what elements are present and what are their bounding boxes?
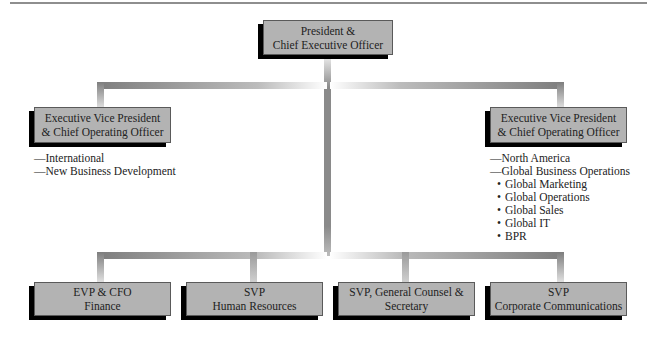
sub-responsibility-item: BPR (490, 230, 630, 243)
connector-top-bracket-right (330, 82, 564, 89)
connector-top-bracket-left (97, 82, 327, 89)
evp-coo-left-box: Executive Vice President & Chief Operati… (34, 107, 171, 143)
ceo-title-line1: President & (301, 24, 356, 38)
bottom-box-line1: SVP (244, 285, 265, 299)
evp-right-responsibilities: —North America —Global Business Operatio… (490, 152, 630, 243)
sub-responsibility-item: Global Marketing (490, 178, 630, 191)
bottom-box-line1: EVP & CFO (73, 285, 131, 299)
evp-right-title-line1: Executive Vice President (501, 111, 616, 125)
responsibility-item: —International (34, 152, 176, 165)
connector-bottom-drop-3 (402, 252, 409, 282)
responsibility-item: —New Business Development (34, 165, 176, 178)
connector-evp-left-drop (97, 82, 104, 107)
bottom-box-line2: Human Resources (213, 299, 297, 313)
sub-responsibility-item: Global Operations (490, 191, 630, 204)
connector-evp-right-drop (557, 82, 564, 107)
connector-bottom-drop-4 (557, 252, 564, 282)
bottom-box-line1: SVP (548, 285, 569, 299)
connector-bottom-bracket-left (97, 252, 327, 259)
svp-corporate-communications-box: SVP Corporate Communications (490, 282, 627, 316)
ceo-box: President & Chief Executive Officer (263, 20, 393, 55)
sub-responsibility-item: Global Sales (490, 204, 630, 217)
evp-coo-right-box: Executive Vice President & Chief Operati… (490, 107, 627, 143)
evp-left-title-line1: Executive Vice President (45, 111, 160, 125)
connector-bottom-drop-1 (97, 252, 104, 282)
evp-right-title-line2: & Chief Operating Officer (497, 125, 619, 139)
svp-general-counsel-box: SVP, General Counsel & Secretary (338, 282, 475, 316)
top-rule (10, 2, 647, 4)
ceo-title-line2: Chief Executive Officer (273, 38, 383, 52)
connector-bottom-drop-2 (250, 252, 257, 282)
responsibility-item: —North America (490, 152, 630, 165)
bottom-box-line2: Secretary (385, 299, 428, 313)
bottom-box-line2: Corporate Communications (495, 299, 622, 313)
bottom-box-line1: SVP, General Counsel & (349, 285, 463, 299)
connector-bottom-bracket-right (330, 252, 564, 259)
cfo-finance-box: EVP & CFO Finance (34, 282, 171, 316)
bottom-box-line2: Finance (84, 299, 120, 313)
evp-left-responsibilities: —International —New Business Development (34, 152, 176, 178)
sub-responsibility-item: Global IT (490, 217, 630, 230)
responsibility-item: —Global Business Operations (490, 165, 630, 178)
evp-left-title-line2: & Chief Operating Officer (41, 125, 163, 139)
svp-human-resources-box: SVP Human Resources (186, 282, 323, 316)
